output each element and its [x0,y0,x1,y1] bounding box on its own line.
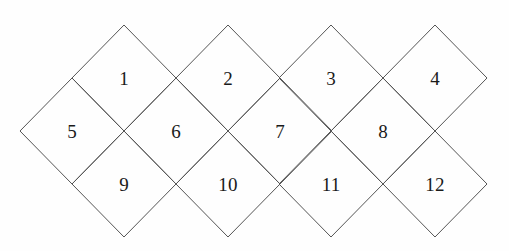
diamond-label-6: 6 [171,122,181,141]
diamond-label-7: 7 [275,122,285,141]
diamond-label-11: 11 [322,175,341,194]
diamond-label-3: 3 [326,69,336,88]
diamond-label-12: 12 [425,175,444,194]
diamond-label-2: 2 [223,69,233,88]
diamond-label-9: 9 [119,175,129,194]
diamond-label-10: 10 [218,175,237,194]
diamond-label-4: 4 [430,69,440,88]
diamond-label-1: 1 [119,69,129,88]
diamond-label-8: 8 [378,122,388,141]
diamond-shape-group [20,25,487,237]
diamond-label-5: 5 [67,122,77,141]
diamond-tiling-figure: 123456789101112 [0,0,509,251]
